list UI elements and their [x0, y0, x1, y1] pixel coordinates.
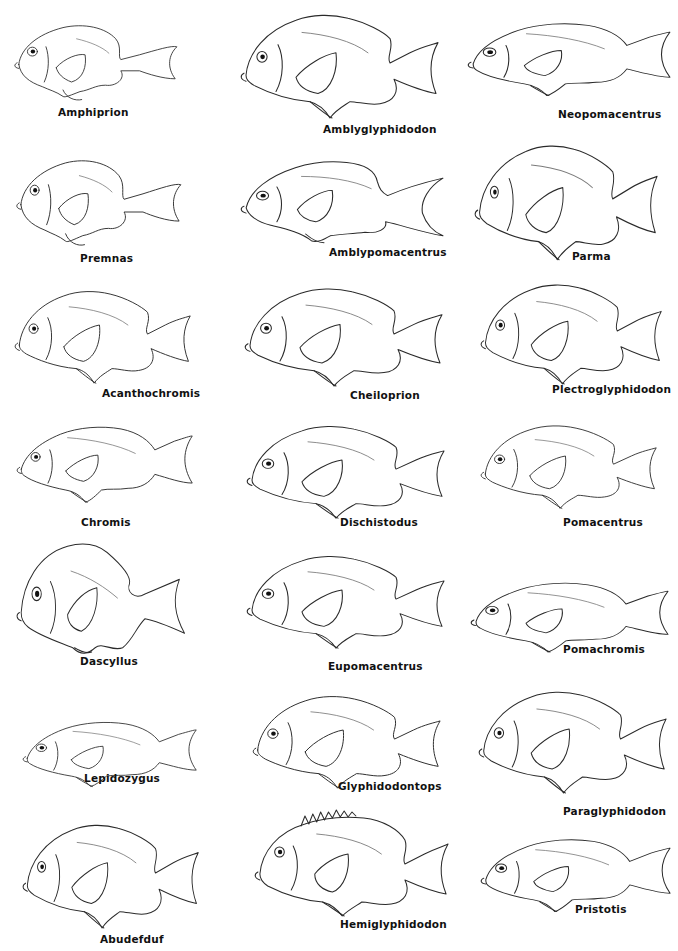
genus-label-amphiprion: Amphiprion [58, 106, 129, 118]
genus-label-dischistodus: Dischistodus [340, 516, 418, 528]
abudefduf-fish-icon [22, 818, 200, 930]
amphiprion-fish-icon [12, 18, 182, 106]
fish-figure-paraglyphidodon [478, 685, 668, 795]
genus-label-amblyglyphidodon: Amblyglyphidodon [323, 123, 437, 135]
genus-label-glyphidodontops: Glyphidodontops [338, 780, 442, 792]
glyphidodontops-fish-icon [252, 690, 442, 790]
chromis-fish-icon [16, 415, 194, 511]
fish-figure-parma [474, 138, 659, 262]
fish-figure-amphiprion [12, 18, 182, 106]
plectroglyphidodon-fish-icon [480, 278, 663, 386]
fish-figure-amblyglyphidodon [240, 8, 440, 120]
genus-label-cheiloprion: Cheiloprion [350, 389, 420, 401]
genus-label-abudefduf: Abudefduf [100, 933, 164, 945]
genus-label-paraglyphidodon: Paraglyphidodon [563, 805, 666, 817]
cheiloprion-fish-icon [244, 282, 444, 388]
fish-figure-amblypomacentrus [240, 152, 445, 248]
dischistodus-fish-icon [246, 420, 446, 520]
fish-figure-premnas [14, 152, 186, 252]
fish-figure-pomacentrus [480, 420, 658, 510]
genus-label-eupomacentrus: Eupomacentrus [328, 660, 423, 672]
genus-label-hemiglyphidodon: Hemiglyphidodon [340, 918, 447, 930]
premnas-fish-icon [14, 152, 186, 252]
pomacentrus-fish-icon [480, 420, 658, 510]
genus-label-amblypomacentrus: Amblypomacentrus [329, 246, 447, 258]
fish-figure-neopomacentrus [467, 12, 672, 104]
genus-label-lepidozygus: Lepidozygus [84, 772, 160, 784]
genus-label-pristotis: Pristotis [575, 903, 627, 915]
parma-fish-icon [474, 138, 659, 262]
acanthochromis-fish-icon [14, 285, 192, 385]
damselfish-genera-plate: Amphiprion Amblyglyphidodon [0, 0, 678, 951]
fish-figure-hemiglyphidodon [254, 808, 450, 918]
hemiglyphidodon-fish-icon [254, 808, 450, 918]
eupomacentrus-fish-icon [246, 550, 446, 650]
fish-figure-chromis [16, 415, 194, 511]
fish-figure-eupomacentrus [246, 550, 446, 650]
genus-label-dascyllus: Dascyllus [80, 655, 138, 667]
fish-figure-cheiloprion [244, 282, 444, 388]
genus-label-premnas: Premnas [80, 252, 133, 264]
amblyglyphidodon-fish-icon [240, 8, 440, 120]
genus-label-pomacentrus: Pomacentrus [563, 516, 643, 528]
genus-label-chromis: Chromis [81, 516, 131, 528]
fish-figure-dascyllus [16, 540, 188, 654]
dascyllus-fish-icon [16, 540, 188, 654]
fish-figure-plectroglyphidodon [480, 278, 663, 386]
genus-label-pomachromis: Pomachromis [563, 643, 645, 655]
fish-figure-abudefduf [22, 818, 200, 930]
fish-figure-acanthochromis [14, 285, 192, 385]
genus-label-acanthochromis: Acanthochromis [102, 387, 200, 399]
amblypomacentrus-fish-icon [240, 152, 445, 248]
genus-label-plectroglyphidodon: Plectroglyphidodon [552, 383, 671, 395]
genus-label-parma: Parma [572, 250, 611, 262]
fish-figure-dischistodus [246, 420, 446, 520]
genus-label-neopomacentrus: Neopomacentrus [558, 108, 661, 120]
neopomacentrus-fish-icon [467, 12, 672, 104]
fish-figure-glyphidodontops [252, 690, 442, 790]
paraglyphidodon-fish-icon [478, 685, 668, 795]
